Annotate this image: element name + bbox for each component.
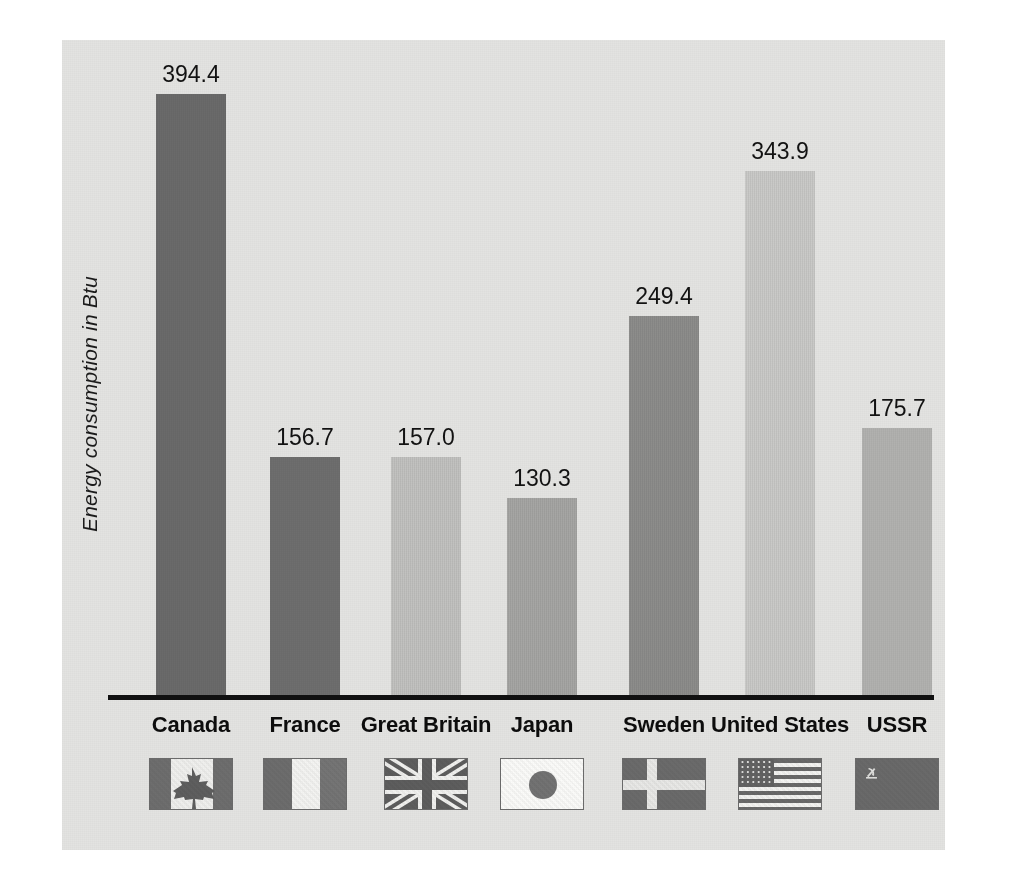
- bar[interactable]: [862, 428, 932, 697]
- flag-great-britain: [384, 758, 468, 810]
- bar[interactable]: [270, 457, 340, 697]
- bar-value-label: 343.9: [751, 138, 809, 165]
- chart-panel: Energy consumption in Btu 394.4156.7157.…: [62, 40, 945, 850]
- bar[interactable]: [745, 171, 815, 697]
- france-flag: [263, 758, 347, 810]
- category-label-ussr: USSR: [787, 712, 1007, 738]
- flag-canada: [149, 758, 233, 810]
- bar-group-canada: 394.4: [156, 55, 226, 697]
- bar-value-label: 175.7: [868, 395, 926, 422]
- canada-flag: [149, 758, 233, 810]
- bar-group-france: 156.7: [270, 55, 340, 697]
- bar[interactable]: [629, 316, 699, 697]
- great-britain-flag: [384, 758, 468, 810]
- bar-group-great-britain: 157.0: [391, 55, 461, 697]
- sweden-flag: [622, 758, 706, 810]
- x-axis-baseline: [108, 695, 934, 700]
- flag-united-states: [738, 758, 822, 810]
- y-axis-title: Energy consumption in Btu: [78, 184, 102, 624]
- bar-group-ussr: 175.7: [862, 55, 932, 697]
- bar[interactable]: [507, 498, 577, 697]
- japan-flag: [500, 758, 584, 810]
- plot-area: 394.4156.7157.0130.3249.4343.9175.7: [108, 55, 930, 697]
- bar[interactable]: [156, 94, 226, 697]
- bar-group-united-states: 343.9: [745, 55, 815, 697]
- bar-value-label: 157.0: [397, 424, 455, 451]
- flag-japan: [500, 758, 584, 810]
- bar-value-label: 156.7: [276, 424, 334, 451]
- flag-ussr: [855, 758, 939, 810]
- bar-value-label: 130.3: [513, 465, 571, 492]
- flag-sweden: [622, 758, 706, 810]
- chart-screenshot: Energy consumption in Btu 394.4156.7157.…: [0, 0, 1011, 886]
- ussr-flag: [855, 758, 939, 810]
- flag-france: [263, 758, 347, 810]
- bar-value-label: 394.4: [162, 61, 220, 88]
- country-flags-row: [108, 758, 930, 828]
- bar-group-japan: 130.3: [507, 55, 577, 697]
- bar-value-label: 249.4: [635, 283, 693, 310]
- bar-group-sweden: 249.4: [629, 55, 699, 697]
- category-labels-row: CanadaFranceGreat BritainJapanSwedenUnit…: [108, 712, 930, 752]
- united-states-flag: [738, 758, 822, 810]
- bar[interactable]: [391, 457, 461, 697]
